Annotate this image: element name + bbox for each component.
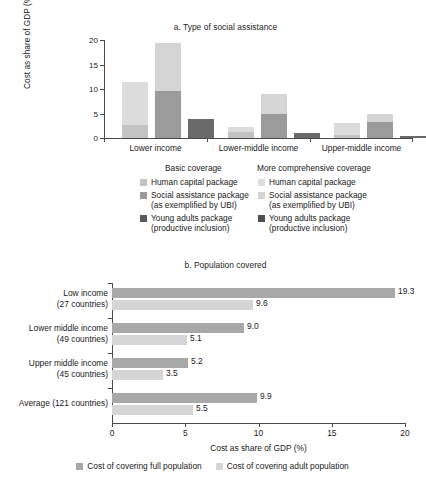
panel-b-category-upper-middle-income-line1: Upper middle income — [29, 358, 108, 368]
legend-swatch-basic-social-assistance — [140, 192, 147, 199]
panel-a-title-text: a. Type of social assistance — [148, 22, 278, 32]
value-label-upper-middle-adult: 3.5 — [166, 368, 178, 378]
legend-label-basic-social-assistance-sub: (as exemplified by UBI) — [151, 200, 237, 210]
bar-segment-comprehensive — [228, 127, 254, 132]
legend-swatch-comprehensive-young-adults — [258, 215, 265, 222]
panel-b-category-lower-middle-income-line1: Lower middle income — [29, 323, 108, 333]
panel-a-x-axis — [104, 138, 413, 139]
value-label-average-adult: 5.5 — [196, 403, 208, 413]
panel-b-category-upper-middle-income: Upper middle income (45 countries) — [0, 358, 108, 379]
panel-b-category-low-income-line2: (27 countries) — [57, 299, 108, 309]
panel-a-ytick-label-0: 0 — [84, 134, 98, 143]
bar-lower-middle-income-full-population — [112, 323, 244, 333]
bar-segment-comprehensive — [367, 114, 393, 122]
legend-item-adult-population[interactable]: Cost of covering adult population — [216, 461, 349, 471]
panel-a-xlabel-upper-middle-income: Upper-middle income — [310, 143, 413, 153]
legend-header-more-comprehensive-coverage: More comprehensive coverage — [257, 163, 371, 173]
panel-b-xtick-label-20: 20 — [395, 428, 415, 438]
bar-lower-income-social-assistance — [155, 43, 181, 138]
panel-a-ytick-label-5: 5 — [84, 110, 98, 119]
bar-lower-middle-income-social-assistance — [261, 94, 287, 138]
bar-average-full-population — [112, 393, 257, 403]
panel-b-xtick-10 — [259, 423, 260, 427]
bar-segment-basic — [334, 135, 360, 138]
bar-segment-basic — [228, 132, 254, 138]
panel-a-xlabel-lower-middle-income: Lower-middle income — [207, 143, 310, 153]
panel-b-xtick-15 — [332, 423, 333, 427]
panel-a-xtick-start — [104, 138, 105, 142]
panel-a-xtick-1 — [207, 138, 208, 142]
panel-a-ytick-label-15: 15 — [80, 61, 98, 70]
value-label-lower-middle-full: 9.0 — [247, 321, 259, 331]
bar-upper-middle-income-adult-population — [112, 370, 163, 380]
value-label-low-income-adult: 9.6 — [256, 298, 268, 308]
legend-label-comprehensive-social-assistance-sub: (as exemplified by UBI) — [269, 200, 355, 210]
panel-a-title: a. Type of social assistance — [0, 22, 425, 32]
legend-swatch-basic-human-capital — [140, 179, 147, 186]
legend-header-basic-coverage: Basic coverage — [165, 163, 222, 173]
panel-b-category-average-line1: Average (121 countries) — [19, 398, 108, 408]
panel-a-ytick-label-20: 20 — [80, 36, 98, 45]
bar-segment-basic — [261, 114, 287, 138]
legend-label-full-population: Cost of covering full population — [87, 461, 202, 471]
panel-b-category-low-income: Low income (27 countries) — [0, 288, 108, 309]
panel-a-xtick-2 — [310, 138, 311, 142]
panel-b-category-average: Average (121 countries) — [0, 398, 108, 409]
bar-lower-middle-income-young-adults — [294, 133, 320, 138]
value-label-upper-middle-full: 5.2 — [191, 356, 203, 366]
bar-lower-middle-income-adult-population — [112, 335, 187, 345]
chart-panel-a: a. Type of social assistance Cost as sha… — [0, 0, 425, 160]
panel-b-title: b. Population covered — [0, 260, 425, 270]
legend-label-adult-population: Cost of covering adult population — [227, 461, 349, 471]
bar-segment-basic — [367, 122, 393, 138]
bar-lower-income-human-capital — [122, 82, 148, 138]
bar-average-adult-population — [112, 405, 193, 415]
bar-low-income-adult-population — [112, 300, 253, 310]
panel-b-xtick-label-10: 10 — [249, 428, 269, 438]
bar-upper-middle-income-full-population — [112, 358, 188, 368]
legend-swatch-full-population — [76, 463, 83, 470]
value-label-low-income-full: 19.3 — [398, 286, 414, 296]
panel-b-category-low-income-line1: Low income — [63, 288, 108, 298]
panel-a-legend: Basic coverage More comprehensive covera… — [0, 160, 425, 255]
legend-swatch-comprehensive-human-capital — [258, 179, 265, 186]
legend-label-basic-young-adults: Young adults package — [151, 213, 232, 223]
panel-a-y-axis-label: Cost as share of GDP (%) — [22, 0, 32, 96]
bar-segment-comprehensive — [155, 43, 181, 91]
panel-b-xtick-label-15: 15 — [322, 428, 342, 438]
legend-swatch-adult-population — [216, 463, 223, 470]
bar-upper-middle-income-human-capital — [334, 123, 360, 138]
bar-lower-middle-income-human-capital — [228, 127, 254, 138]
bar-segment-comprehensive — [334, 123, 360, 135]
panel-b-xtick-20 — [405, 423, 406, 427]
legend-label-basic-human-capital: Human capital package — [151, 177, 238, 187]
legend-label-comprehensive-social-assistance: Social assistance package — [269, 190, 367, 200]
bar-segment-basic — [155, 91, 181, 138]
bar-upper-middle-income-social-assistance — [367, 114, 393, 139]
panel-b-xtick-label-0: 0 — [102, 428, 122, 438]
bar-segment-basic — [122, 125, 148, 138]
panel-a-plot-area — [104, 40, 411, 138]
panel-a-xtick-end — [412, 138, 413, 142]
bar-low-income-full-population — [112, 288, 395, 298]
legend-label-comprehensive-young-adults-sub: (productive inclusion) — [269, 223, 347, 233]
legend-item-full-population[interactable]: Cost of covering full population — [76, 461, 202, 471]
legend-swatch-comprehensive-social-assistance — [258, 192, 265, 199]
panel-b-legend: Cost of covering full population Cost of… — [0, 461, 425, 471]
bar-segment-comprehensive — [122, 82, 148, 125]
legend-label-comprehensive-young-adults: Young adults package — [269, 213, 350, 223]
legend-label-comprehensive-human-capital: Human capital package — [269, 177, 356, 187]
legend-swatch-basic-young-adults — [140, 215, 147, 222]
panel-a-ytick-label-10: 10 — [80, 85, 98, 94]
panel-b-category-lower-middle-income: Lower middle income (49 countries) — [0, 323, 108, 344]
bar-lower-income-young-adults — [188, 119, 214, 138]
panel-b-xtick-5 — [185, 423, 186, 427]
panel-b-x-axis-label: Cost as share of GDP (%) — [112, 443, 405, 453]
value-label-average-full: 9.9 — [260, 391, 272, 401]
panel-b-category-lower-middle-income-line2: (49 countries) — [57, 334, 108, 344]
legend-label-basic-social-assistance: Social assistance package — [151, 190, 249, 200]
panel-b-title-text: b. Population covered — [158, 260, 266, 270]
bar-segment-comprehensive — [261, 94, 287, 114]
panel-b-category-upper-middle-income-line2: (45 countries) — [57, 369, 108, 379]
panel-b-xtick-0 — [112, 423, 113, 427]
